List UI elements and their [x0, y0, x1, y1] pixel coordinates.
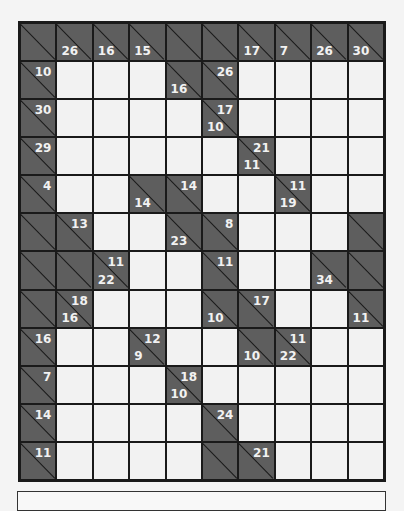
answer-cell[interactable] [348, 175, 384, 213]
down-clue: 16 [98, 45, 115, 57]
down-clue: 30 [353, 45, 370, 57]
answer-cell[interactable] [311, 213, 347, 251]
answer-cell[interactable] [348, 61, 384, 99]
answer-cell[interactable] [311, 442, 347, 480]
answer-cell[interactable] [93, 366, 129, 404]
answer-cell[interactable] [56, 328, 92, 366]
across-clue: 16 [35, 333, 52, 345]
answer-cell[interactable] [93, 404, 129, 442]
answer-cell[interactable] [166, 328, 202, 366]
across-clue: 4 [43, 180, 51, 192]
clue-cell: 16 [93, 23, 129, 61]
across-clue: 18 [180, 371, 197, 383]
answer-cell[interactable] [129, 61, 165, 99]
answer-cell[interactable] [238, 404, 274, 442]
answer-cell[interactable] [166, 442, 202, 480]
down-clue: 11 [353, 312, 370, 324]
down-clue: 23 [171, 235, 188, 247]
answer-cell[interactable] [93, 213, 129, 251]
blocked-cell [56, 251, 92, 289]
blocked-cell [348, 251, 384, 289]
across-clue: 24 [217, 409, 234, 421]
answer-cell[interactable] [56, 61, 92, 99]
answer-cell[interactable] [275, 61, 311, 99]
answer-cell[interactable] [348, 137, 384, 175]
answer-cell[interactable] [202, 366, 238, 404]
answer-cell[interactable] [275, 290, 311, 328]
answer-cell[interactable] [348, 404, 384, 442]
answer-cell[interactable] [311, 137, 347, 175]
answer-cell[interactable] [275, 442, 311, 480]
clue-cell: 10 [20, 61, 56, 99]
answer-cell[interactable] [348, 328, 384, 366]
down-clue: 19 [280, 197, 297, 209]
answer-cell[interactable] [166, 404, 202, 442]
answer-cell[interactable] [56, 366, 92, 404]
answer-cell[interactable] [238, 61, 274, 99]
down-clue: 34 [316, 274, 333, 286]
answer-cell[interactable] [56, 137, 92, 175]
answer-cell[interactable] [311, 366, 347, 404]
answer-cell[interactable] [129, 137, 165, 175]
answer-cell[interactable] [56, 404, 92, 442]
answer-cell[interactable] [311, 99, 347, 137]
answer-cell[interactable] [166, 251, 202, 289]
answer-cell[interactable] [238, 213, 274, 251]
answer-cell[interactable] [93, 442, 129, 480]
answer-cell[interactable] [56, 175, 92, 213]
clue-cell: 13 [56, 213, 92, 251]
answer-cell[interactable] [129, 442, 165, 480]
clue-cell: 10 [202, 290, 238, 328]
answer-cell[interactable] [93, 290, 129, 328]
across-clue: 30 [35, 104, 52, 116]
answer-cell[interactable] [129, 404, 165, 442]
answer-cell[interactable] [311, 175, 347, 213]
answer-cell[interactable] [275, 404, 311, 442]
answer-cell[interactable] [238, 366, 274, 404]
answer-cell[interactable] [129, 213, 165, 251]
answer-cell[interactable] [348, 366, 384, 404]
answer-cell[interactable] [93, 99, 129, 137]
answer-cell[interactable] [311, 290, 347, 328]
across-clue: 12 [144, 333, 161, 345]
answer-cell[interactable] [93, 328, 129, 366]
answer-cell[interactable] [129, 290, 165, 328]
answer-cell[interactable] [166, 137, 202, 175]
answer-cell[interactable] [56, 99, 92, 137]
clue-cell: 16 [166, 61, 202, 99]
blocked-cell [20, 23, 56, 61]
clue-cell: 34 [311, 251, 347, 289]
answer-cell[interactable] [129, 99, 165, 137]
answer-cell[interactable] [93, 175, 129, 213]
answer-cell[interactable] [93, 137, 129, 175]
answer-cell[interactable] [275, 99, 311, 137]
answer-cell[interactable] [166, 290, 202, 328]
answer-cell[interactable] [202, 328, 238, 366]
clue-cell: 1816 [56, 290, 92, 328]
down-clue: 22 [98, 274, 115, 286]
answer-cell[interactable] [56, 442, 92, 480]
answer-cell[interactable] [275, 366, 311, 404]
answer-cell[interactable] [93, 61, 129, 99]
down-clue: 15 [134, 45, 151, 57]
answer-cell[interactable] [275, 137, 311, 175]
answer-cell[interactable] [311, 404, 347, 442]
answer-cell[interactable] [238, 251, 274, 289]
answer-cell[interactable] [166, 99, 202, 137]
answer-cell[interactable] [275, 251, 311, 289]
answer-cell[interactable] [275, 213, 311, 251]
across-clue: 13 [71, 218, 88, 230]
answer-cell[interactable] [129, 366, 165, 404]
answer-cell[interactable] [202, 137, 238, 175]
answer-cell[interactable] [348, 442, 384, 480]
answer-cell[interactable] [129, 251, 165, 289]
clue-cell: 15 [129, 23, 165, 61]
answer-cell[interactable] [238, 99, 274, 137]
answer-cell[interactable] [202, 175, 238, 213]
answer-cell[interactable] [238, 175, 274, 213]
down-clue: 9 [134, 350, 142, 362]
answer-cell[interactable] [348, 99, 384, 137]
answer-cell[interactable] [311, 61, 347, 99]
answer-cell[interactable] [311, 328, 347, 366]
clue-cell: 26 [202, 61, 238, 99]
